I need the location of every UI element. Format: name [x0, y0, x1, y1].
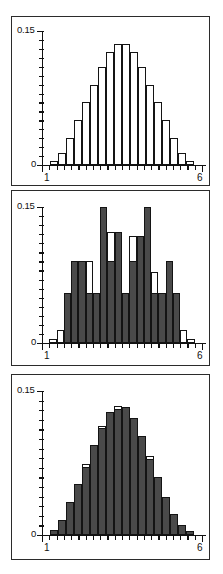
- x-axis-minor-tick: [180, 536, 181, 540]
- histogram-bar: [66, 138, 74, 165]
- x-axis-minor-tick: [137, 344, 138, 348]
- x-axis-minor-tick: [195, 536, 196, 540]
- x-axis-minor-tick: [57, 166, 58, 170]
- x-axis-major-tick: [42, 536, 43, 542]
- histogram-bar: [170, 138, 178, 165]
- histogram-bar: [122, 44, 130, 165]
- x-axis-minor-tick: [115, 344, 116, 348]
- x-axis-minor-tick: [107, 166, 108, 170]
- x-axis-minor-tick: [166, 344, 167, 348]
- histogram-bar: [178, 153, 186, 166]
- x-axis-minor-tick: [78, 344, 79, 348]
- y-axis-zero-label: 0: [31, 337, 36, 347]
- histogram-bar: [187, 339, 194, 343]
- histogram-bar: [50, 161, 58, 165]
- x-axis-minor-tick: [57, 536, 58, 540]
- histogram-bar: [162, 497, 170, 535]
- x-axis-left-label: 1: [44, 351, 49, 361]
- histogram-bar: [86, 293, 93, 343]
- x-axis-minor-tick: [151, 536, 152, 540]
- histogram-bar: [115, 232, 122, 343]
- x-axis-minor-tick: [64, 344, 65, 348]
- histogram-bar: [138, 436, 146, 535]
- y-axis-top-label: 0.15: [17, 201, 35, 211]
- histogram-bar: [130, 52, 138, 165]
- histogram-bar: [114, 44, 122, 165]
- x-axis-minor-tick: [158, 536, 159, 540]
- histogram-bar: [138, 67, 146, 165]
- x-axis-minor-tick: [151, 166, 152, 170]
- histogram-bar: [106, 52, 114, 165]
- x-axis-minor-tick: [151, 344, 152, 348]
- x-axis-major-tick: [202, 344, 203, 350]
- x-axis-minor-tick: [93, 166, 94, 170]
- x-axis-minor-tick: [100, 536, 101, 540]
- histogram-panel-bottom: 0.15016: [11, 374, 210, 560]
- histogram-bar: [166, 261, 173, 343]
- x-axis-minor-tick: [173, 166, 174, 170]
- x-axis-minor-tick: [144, 166, 145, 170]
- histogram-bar: [151, 293, 158, 343]
- x-axis-right-label: 6: [197, 173, 202, 183]
- x-axis-minor-tick: [195, 166, 196, 170]
- x-axis-minor-tick: [158, 166, 159, 170]
- x-axis-minor-tick: [100, 344, 101, 348]
- x-axis-minor-tick: [173, 344, 174, 348]
- histogram-bar: [66, 502, 74, 535]
- x-axis-line: [42, 165, 206, 166]
- histogram-bar: [144, 207, 151, 343]
- x-axis-minor-tick: [166, 166, 167, 170]
- x-axis-minor-tick: [49, 536, 50, 540]
- histogram-bar: [100, 207, 107, 343]
- histogram-bar: [98, 428, 106, 535]
- histogram-bar: [154, 477, 162, 535]
- x-axis-minor-tick: [173, 536, 174, 540]
- x-axis-minor-tick: [86, 536, 87, 540]
- x-axis-minor-tick: [64, 536, 65, 540]
- histogram-bar: [98, 67, 106, 165]
- x-axis-minor-tick: [100, 166, 101, 170]
- histogram-bar: [50, 530, 58, 535]
- x-axis-minor-tick: [158, 344, 159, 348]
- x-axis-minor-tick: [144, 344, 145, 348]
- histogram-bar: [90, 85, 98, 165]
- x-axis-line: [42, 535, 206, 536]
- histogram-bar: [146, 85, 154, 165]
- histogram-bar: [78, 261, 85, 343]
- histogram-bar: [93, 293, 100, 343]
- y-axis-zero-label: 0: [31, 159, 36, 169]
- x-axis-minor-tick: [187, 344, 188, 348]
- x-axis-minor-tick: [195, 344, 196, 348]
- histogram-bar: [90, 445, 98, 535]
- histogram-bar: [82, 467, 90, 535]
- x-axis-left-label: 1: [44, 173, 49, 183]
- x-axis-major-tick: [202, 166, 203, 172]
- histogram-bar: [49, 339, 56, 343]
- histogram-bar: [154, 102, 162, 165]
- histogram-bar: [122, 407, 130, 535]
- x-axis-minor-tick: [86, 344, 87, 348]
- histogram-bar: [180, 330, 187, 343]
- x-axis-minor-tick: [57, 344, 58, 348]
- histogram-bar: [74, 120, 82, 165]
- histogram-panel-middle: 0.15016: [11, 190, 210, 366]
- x-axis-minor-tick: [137, 536, 138, 540]
- bars-group: [42, 31, 202, 165]
- x-axis-minor-tick: [144, 536, 145, 540]
- figure-container: 0.15016 0.15016 0.15016: [0, 0, 223, 574]
- x-axis-minor-tick: [129, 166, 130, 170]
- x-axis-right-label: 6: [197, 351, 202, 361]
- x-axis-major-tick: [42, 166, 43, 172]
- histogram-bar: [82, 102, 90, 165]
- plot-area-bottom: 0.15016: [12, 375, 209, 559]
- x-axis-minor-tick: [115, 166, 116, 170]
- histogram-bar: [146, 459, 154, 535]
- x-axis-minor-tick: [49, 344, 50, 348]
- x-axis-right-label: 6: [197, 543, 202, 553]
- y-axis-zero-label: 0: [31, 529, 36, 539]
- histogram-bar: [186, 531, 194, 535]
- histogram-bar: [137, 236, 144, 343]
- histogram-bar: [122, 293, 129, 343]
- x-axis-minor-tick: [86, 166, 87, 170]
- histogram-bar: [64, 293, 71, 343]
